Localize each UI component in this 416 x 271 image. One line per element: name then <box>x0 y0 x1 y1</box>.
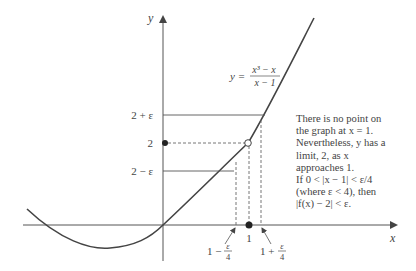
svg-text:ε: ε <box>280 241 284 251</box>
svg-text:1 +: 1 + <box>260 245 274 257</box>
note-line: Nevertheless, y has a <box>296 137 416 149</box>
note-line: There is no point on <box>296 113 416 125</box>
pointer-1-plus-eps4 <box>262 228 271 244</box>
note-line: (where ε < 4), then <box>296 186 416 198</box>
note-line: approaches 1. <box>296 162 416 174</box>
label-2-plus-eps: 2 + ε <box>131 109 153 121</box>
y-axis-label: y <box>147 11 154 25</box>
svg-text:x³ − x: x³ − x <box>251 64 276 75</box>
x-axis-label: x <box>389 231 396 245</box>
label-1: 1 <box>246 232 252 244</box>
label-2: 2 <box>148 137 154 149</box>
svg-text:4: 4 <box>226 252 231 262</box>
explanation-text: There is no point on the graph at x = 1.… <box>296 113 416 211</box>
filled-dot-x1 <box>246 222 253 229</box>
label-1-minus-eps4: 1 − ε 4 <box>207 241 232 262</box>
svg-text:ε: ε <box>226 241 230 251</box>
label-1-plus-eps4: 1 + ε 4 <box>260 241 286 262</box>
svg-text:1 −: 1 − <box>207 245 221 257</box>
note-line: limit, 2, as x <box>296 150 416 162</box>
label-2-minus-eps: 2 − ε <box>131 165 153 177</box>
function-curve <box>27 18 314 248</box>
note-line: If 0 < |x − 1| < ε/4 <box>296 174 416 186</box>
open-circle-hole <box>245 140 252 147</box>
note-line: |f(x) − 2| < ε. <box>296 198 416 210</box>
svg-text:x − 1: x − 1 <box>253 77 275 88</box>
svg-text:4: 4 <box>280 252 285 262</box>
filled-dot-y2 <box>162 140 168 146</box>
note-line: the graph at x = 1. <box>296 125 416 137</box>
function-label: y = x³ − x x − 1 <box>229 64 280 88</box>
svg-text:y =: y = <box>229 70 245 82</box>
